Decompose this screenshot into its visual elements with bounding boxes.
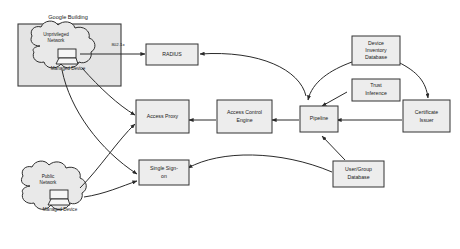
diagram-canvas: Google Building Unprivileged Network Man… — [0, 0, 460, 249]
node-device-inventory-database[interactable]: Device Inventory Database — [352, 36, 400, 65]
edge-public-to-sso — [84, 181, 137, 197]
cloud-unprivileged-label-line1: Unprivileged — [43, 32, 69, 37]
node-user-group-database-label-line2: Database — [347, 174, 369, 180]
node-single-sign-on-label-line1: Single Sign- — [150, 165, 178, 171]
cloud-unprivileged-device-label: Managed Device — [51, 66, 86, 71]
edge-user-group-to-pipeline — [322, 136, 345, 160]
node-access-control-engine-label-line2: Engine — [236, 117, 252, 123]
edge-device-inventory-to-certificate-issuer — [398, 62, 428, 98]
node-access-proxy[interactable]: Access Proxy — [136, 100, 189, 133]
node-certificate-issuer-rect[interactable] — [403, 100, 450, 132]
cloud-public-label-line2: Network — [40, 180, 58, 185]
node-access-proxy-label: Access Proxy — [147, 113, 179, 119]
node-radius[interactable]: RADIUS — [146, 44, 198, 65]
node-trust-inference-label-line2: Inference — [365, 90, 387, 96]
node-pipeline[interactable]: Pipeline — [300, 106, 338, 132]
cloud-public-network: Public Network Managed Device — [21, 161, 86, 212]
node-single-sign-on[interactable]: Single Sign- on — [139, 160, 189, 185]
node-device-inventory-database-label-line1: Device — [368, 40, 384, 46]
node-device-inventory-database-label-line3: Database — [365, 54, 387, 60]
edge-pipeline-to-radius — [200, 53, 306, 96]
edge-device-inventory-to-pipeline — [308, 62, 352, 100]
node-user-group-database[interactable]: User/Group Database — [333, 161, 384, 187]
laptop-icon-unprivileged — [56, 49, 78, 64]
node-device-inventory-database-label-line2: Inventory — [365, 47, 387, 53]
node-certificate-issuer-label-line1: Certificate — [415, 109, 438, 115]
zone-google-building-label: Google Building — [48, 14, 88, 20]
edge-label-802-1x: 802.1x — [111, 42, 125, 47]
cloud-public-device-label: Managed Device — [43, 207, 78, 212]
cloud-public-label-line1: Public — [42, 174, 55, 179]
edge-trust-inference-to-pipeline — [322, 92, 347, 106]
node-trust-inference-label-line1: Trust — [370, 82, 382, 88]
edge-user-group-to-sso — [188, 155, 332, 172]
node-certificate-issuer[interactable]: Certificate Issuer — [403, 100, 450, 132]
laptop-icon-public — [48, 190, 70, 205]
node-pipeline-label: Pipeline — [310, 115, 329, 121]
node-access-control-engine-label-line1: Access Control — [227, 109, 262, 115]
node-single-sign-on-label-line2: on — [161, 173, 167, 179]
edge-public-to-access-proxy — [80, 124, 135, 188]
node-access-control-engine[interactable]: Access Control Engine — [217, 100, 272, 133]
node-certificate-issuer-label-line2: Issuer — [419, 117, 433, 123]
cloud-unprivileged-label-line2: Network — [48, 38, 66, 43]
node-trust-inference[interactable]: Trust Inference — [352, 79, 400, 101]
node-radius-label: RADIUS — [162, 51, 182, 57]
node-user-group-database-label-line1: User/Group — [345, 166, 372, 172]
diagram-svg: Google Building Unprivileged Network Man… — [0, 0, 460, 249]
